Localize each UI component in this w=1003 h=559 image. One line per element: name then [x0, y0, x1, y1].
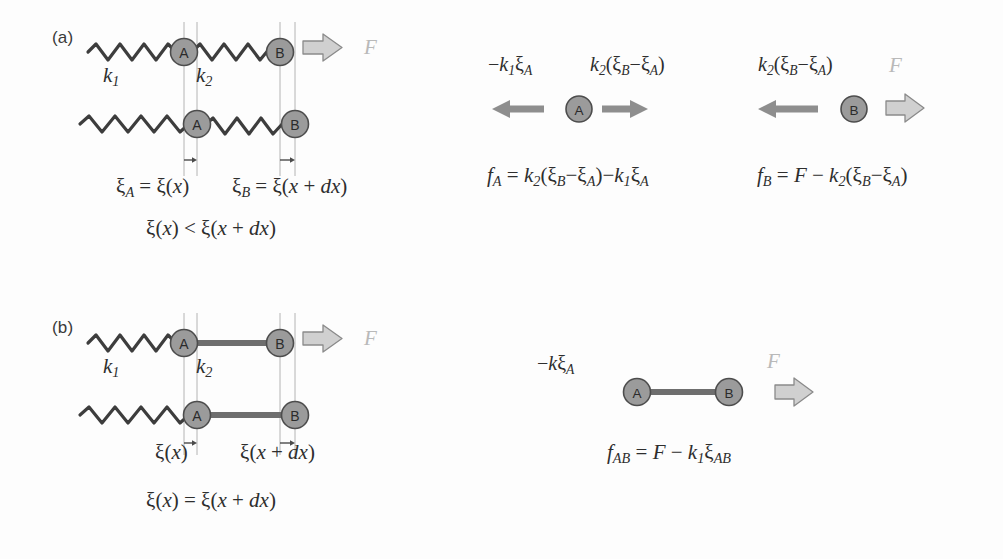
svg-text:B: B	[275, 336, 284, 352]
spring-k1-top-b	[88, 335, 178, 351]
panel-a-caption-xi-b: ξB = ξ(x + dx)	[232, 174, 347, 201]
ball-a-top: A	[171, 39, 198, 66]
svg-text:A: A	[632, 386, 641, 401]
fbab-right-force-label: F	[767, 349, 780, 374]
panel-b-caption-relation: ξ(x) = ξ(x + dx)	[146, 488, 276, 513]
fba-equation: fA = k2(ξB−ξA)−k1ξA	[487, 163, 649, 190]
ball-a-bottom: A	[184, 111, 211, 138]
ball-b-bottom-b: B	[282, 402, 309, 429]
force-arrow-panel-a	[302, 33, 344, 63]
fba-left-force-label: −k1ξA	[488, 53, 532, 79]
ball-a-top-b: A	[171, 330, 198, 357]
fba-right-force-label: k2(ξB−ξA)	[590, 53, 665, 79]
free-body-diagram-b: B	[756, 92, 956, 126]
ball-a-free-body: A	[566, 96, 592, 122]
panel-a-k2-label: k2	[196, 63, 212, 90]
spring-k2-top	[190, 44, 270, 60]
svg-text:B: B	[275, 45, 284, 61]
spring-k1-bottom-b	[80, 407, 191, 423]
panel-a-force-label: F	[364, 35, 377, 60]
svg-text:B: B	[724, 386, 733, 401]
free-body-diagram-ab: A B	[610, 372, 910, 412]
fbab-equation: fAB = F − k1ξAB	[607, 440, 731, 467]
svg-text:A: A	[179, 45, 189, 61]
free-body-diagram-a: A	[490, 92, 690, 126]
ball-b-bottom: B	[282, 111, 309, 138]
panel-b-caption-xi-b: ξ(x + dx)	[240, 440, 315, 465]
svg-text:A: A	[192, 408, 202, 424]
displacement-arrow-a	[184, 157, 197, 163]
ball-b-free-body: B	[841, 96, 867, 122]
panel-b-k1-label: k1	[103, 354, 119, 381]
displacement-arrow-b	[280, 157, 295, 163]
spring-k1-bottom	[80, 116, 191, 132]
ball-a-free-body-b: A	[624, 379, 651, 406]
svg-text:B: B	[290, 408, 299, 424]
panel-b-force-label: F	[364, 326, 377, 351]
panel-b-label: (b)	[52, 318, 73, 338]
force-arrow-right-b	[886, 94, 924, 122]
force-arrow-right-ab	[775, 378, 813, 406]
spring-k2-bottom	[204, 118, 284, 134]
ball-b-free-body-b: B	[716, 379, 743, 406]
svg-text:A: A	[179, 336, 189, 352]
force-arrow-left-b	[758, 100, 818, 118]
panel-a-spring-schematic: A B A B	[80, 14, 340, 194]
svg-text:B: B	[849, 103, 858, 118]
fbab-left-force-label: −kξA	[537, 352, 574, 378]
figure-canvas: (a) A B A	[0, 0, 1003, 559]
panel-a-k1-label: k1	[103, 63, 119, 90]
panel-a-caption-xi-a: ξA = ξ(x)	[116, 174, 189, 201]
force-arrow-panel-b	[302, 324, 344, 354]
panel-a-label: (a)	[52, 28, 73, 48]
svg-text:A: A	[574, 103, 583, 118]
force-arrow-left-a	[492, 100, 544, 118]
svg-text:B: B	[290, 117, 299, 133]
fbb-right-force-label: F	[889, 53, 902, 78]
ball-b-top-b: B	[267, 330, 294, 357]
fbb-equation: fB = F − k2(ξB−ξA)	[757, 163, 908, 190]
ball-b-top: B	[267, 39, 294, 66]
fbb-left-force-label: k2(ξB−ξA)	[758, 53, 833, 79]
force-arrow-right-a	[602, 100, 648, 118]
panel-b-k2-label: k2	[196, 354, 212, 381]
svg-text:A: A	[192, 117, 202, 133]
spring-k1-top	[88, 44, 178, 60]
ball-a-bottom-b: A	[184, 402, 211, 429]
panel-b-caption-xi-a: ξ(x)	[155, 440, 188, 465]
panel-a-caption-relation: ξ(x) < ξ(x + dx)	[146, 216, 276, 241]
